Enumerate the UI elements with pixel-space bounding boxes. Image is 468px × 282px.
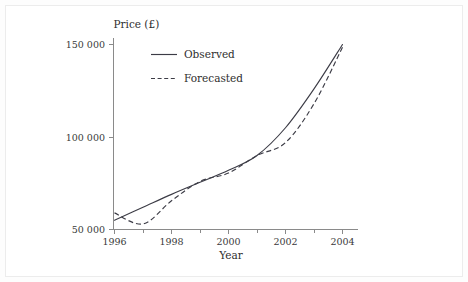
x-tick-label-2004: 2004 <box>330 236 354 247</box>
y-tick-labels: 150 000 100 000 50 000 <box>66 39 105 235</box>
axis-group <box>114 38 359 230</box>
x-tick-label-1996: 1996 <box>102 236 126 247</box>
line-chart-plot: 150 000 100 000 50 000 1996 1998 2000 20… <box>0 0 468 282</box>
chart-figure: 150 000 100 000 50 000 1996 1998 2000 20… <box>0 0 468 282</box>
chart-legend: Observed Forecasted <box>151 48 243 84</box>
legend-label-observed: Observed <box>184 48 235 60</box>
x-tick-marks <box>115 230 343 235</box>
x-tick-label-2000: 2000 <box>216 236 240 247</box>
y-tick-label-100000: 100 000 <box>66 132 105 143</box>
x-tick-label-1998: 1998 <box>159 236 183 247</box>
y-tick-label-150000: 150 000 <box>66 39 105 50</box>
y-tick-label-50000: 50 000 <box>72 224 105 235</box>
series-line-observed <box>115 45 343 221</box>
x-tick-labels: 1996 1998 2000 2002 2004 <box>102 236 354 247</box>
legend-label-forecasted: Forecasted <box>184 72 243 84</box>
y-tick-marks <box>109 45 114 230</box>
y-axis-title: Price (£) <box>114 18 160 30</box>
x-axis-title: Year <box>218 249 243 261</box>
x-tick-label-2002: 2002 <box>273 236 297 247</box>
